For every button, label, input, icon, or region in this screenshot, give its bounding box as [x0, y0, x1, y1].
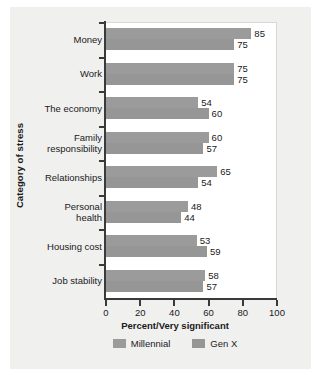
- bar: [106, 28, 251, 39]
- bar: [106, 212, 181, 223]
- bar-value-label: 75: [237, 39, 248, 50]
- category-label: Personalhealth: [10, 201, 102, 223]
- x-axis-tick: [242, 300, 244, 306]
- bar-group: 5359: [106, 235, 277, 257]
- bar: [106, 108, 209, 119]
- bar-value-label: 65: [220, 166, 231, 177]
- legend-swatch: [113, 339, 126, 348]
- x-axis-tick: [105, 300, 107, 306]
- x-axis-line: [104, 298, 277, 300]
- category-label: Familyresponsibility: [10, 132, 102, 154]
- bar: [106, 177, 198, 188]
- bar: [106, 281, 203, 292]
- bar: [106, 63, 234, 74]
- bar: [106, 143, 203, 154]
- bar-value-label: 75: [237, 63, 248, 74]
- bar: [106, 74, 234, 85]
- x-axis-tick-label: 60: [194, 307, 224, 318]
- bar: [106, 246, 207, 257]
- bar-value-label: 53: [200, 235, 211, 246]
- bar-value-label: 58: [208, 270, 219, 281]
- legend-swatch: [192, 339, 205, 348]
- bar-value-label: 85: [254, 28, 265, 39]
- category-label: Job stability: [10, 275, 102, 286]
- x-axis-tick-label: 0: [91, 307, 121, 318]
- y-axis-tick: [99, 22, 105, 24]
- category-label: Work: [10, 68, 102, 79]
- y-axis-tick: [99, 264, 105, 266]
- y-axis-tick: [99, 57, 105, 59]
- y-axis-tick: [99, 229, 105, 231]
- legend-label: Millennial: [131, 338, 171, 349]
- bar: [106, 39, 234, 50]
- bar-value-label: 59: [210, 246, 221, 257]
- bar: [106, 132, 209, 143]
- legend-label: Gen X: [210, 338, 237, 349]
- category-label: Relationships: [10, 172, 102, 183]
- chart-figure: Category of stress MoneyWorkThe economyF…: [0, 0, 319, 376]
- bar: [106, 97, 198, 108]
- bar-group: 6554: [106, 166, 277, 188]
- category-label: The economy: [10, 103, 102, 114]
- bar-group: 6057: [106, 132, 277, 154]
- bar-value-label: 48: [191, 201, 202, 212]
- x-axis-title: Percent/Very significant: [60, 320, 290, 331]
- bar-group: 7575: [106, 63, 277, 85]
- x-axis-tick: [208, 300, 210, 306]
- bar-group: 4844: [106, 201, 277, 223]
- legend-item: Millennial: [113, 338, 171, 349]
- legend-item: Gen X: [192, 338, 237, 349]
- bar: [106, 166, 217, 177]
- bar-group: 8575: [106, 28, 277, 50]
- x-axis-tick-label: 100: [262, 307, 292, 318]
- bar-value-label: 44: [184, 212, 195, 223]
- x-axis-tick-label: 20: [125, 307, 155, 318]
- x-axis-tick: [173, 300, 175, 306]
- bar: [106, 235, 197, 246]
- bar-group: 5857: [106, 270, 277, 292]
- bar: [106, 201, 188, 212]
- bar-value-label: 54: [201, 177, 212, 188]
- y-axis-tick: [99, 91, 105, 93]
- bar-group: 5460: [106, 97, 277, 119]
- y-axis-tick: [99, 160, 105, 162]
- category-label: Housing cost: [10, 241, 102, 252]
- x-axis-tick: [139, 300, 141, 306]
- bar-value-label: 57: [206, 281, 217, 292]
- bar: [106, 270, 205, 281]
- bar-value-label: 54: [201, 97, 212, 108]
- bar-value-label: 75: [237, 74, 248, 85]
- category-axis-labels: MoneyWorkThe economyFamilyresponsibility…: [8, 22, 102, 298]
- y-axis-tick: [99, 126, 105, 128]
- x-axis-tick-label: 80: [228, 307, 258, 318]
- x-axis-tick-label: 40: [159, 307, 189, 318]
- bar-value-label: 60: [212, 132, 223, 143]
- x-axis-tick: [276, 300, 278, 306]
- bar-value-label: 60: [212, 108, 223, 119]
- category-label: Money: [10, 34, 102, 45]
- y-axis-tick: [99, 195, 105, 197]
- bar-value-label: 57: [206, 143, 217, 154]
- chart-legend: MillennialGen X: [60, 338, 290, 349]
